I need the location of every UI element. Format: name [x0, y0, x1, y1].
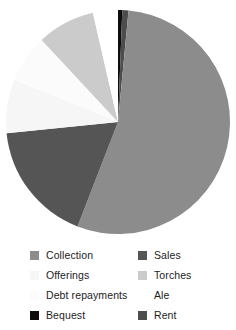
pie-plot-area: BequestRentCollectionSalesOfferingsDebt …	[0, 0, 236, 243]
legend-swatch-icon	[30, 291, 39, 300]
pie-chart-figure: BequestRentCollectionSalesOfferingsDebt …	[0, 0, 236, 330]
legend-item-label: Offerings	[46, 265, 89, 285]
pie-slices-group: BequestRentCollectionSalesOfferingsDebt …	[6, 10, 230, 234]
legend-grid: CollectionSalesOfferingsTorchesDebt repa…	[30, 245, 236, 325]
legend-swatch-icon	[138, 251, 147, 260]
legend-swatch-icon	[30, 271, 39, 280]
legend-item-label: Bequest	[46, 305, 85, 325]
legend-item-label: Rent	[154, 305, 177, 325]
legend-item-debt-repayments[interactable]: Debt repayments	[30, 285, 138, 305]
legend-item-offerings[interactable]: Offerings	[30, 265, 138, 285]
legend-item-label: Debt repayments	[46, 285, 127, 305]
legend-item-ale[interactable]: Ale	[138, 285, 236, 305]
pie-svg: BequestRentCollectionSalesOfferingsDebt …	[0, 0, 236, 243]
legend-item-bequest[interactable]: Bequest	[30, 305, 138, 325]
legend-item-sales[interactable]: Sales	[138, 245, 236, 265]
legend-item-label: Collection	[46, 245, 93, 265]
legend-item-torches[interactable]: Torches	[138, 265, 236, 285]
legend-item-rent[interactable]: Rent	[138, 305, 236, 325]
legend-swatch-icon	[138, 271, 147, 280]
legend-item-label: Ale	[154, 285, 169, 305]
legend-item-collection[interactable]: Collection	[30, 245, 138, 265]
chart-legend: CollectionSalesOfferingsTorchesDebt repa…	[0, 243, 236, 330]
legend-item-label: Sales	[154, 245, 181, 265]
legend-swatch-icon	[138, 291, 147, 300]
legend-swatch-icon	[138, 311, 147, 320]
legend-swatch-icon	[30, 251, 39, 260]
legend-swatch-icon	[30, 311, 39, 320]
legend-item-label: Torches	[154, 265, 191, 285]
